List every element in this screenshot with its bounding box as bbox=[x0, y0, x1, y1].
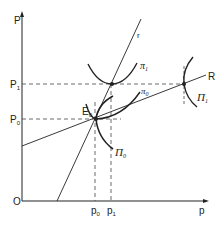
x-axis-label: p bbox=[199, 205, 205, 216]
line-R bbox=[22, 75, 206, 146]
curve-Pi1 bbox=[184, 57, 197, 107]
point-pi1-min bbox=[110, 82, 114, 86]
x-axis-arrow-icon bbox=[203, 199, 209, 203]
Pi1-label: Π1 bbox=[196, 91, 208, 104]
point-Pi1-R bbox=[182, 82, 186, 86]
point-E0 bbox=[94, 117, 98, 121]
pi1-label: π1 bbox=[140, 60, 148, 72]
origin-label: O bbox=[13, 196, 21, 207]
y-tick-P0: P0 bbox=[10, 114, 21, 126]
Pi0-label: Π0 bbox=[114, 146, 126, 159]
curve-Pi0 bbox=[96, 96, 113, 149]
line-r-label: r bbox=[137, 31, 140, 40]
economic-diagram: P p O P1 P0 p0 p1 r R E0 π1 π0 Π0 Π1 bbox=[0, 0, 223, 226]
x-tick-p0: p0 bbox=[91, 205, 101, 217]
y-tick-P1: P1 bbox=[10, 79, 21, 91]
line-R-label: R bbox=[208, 71, 215, 82]
y-axis-label: P bbox=[14, 15, 21, 26]
E0-label: E0 bbox=[82, 106, 93, 118]
x-tick-p1: p1 bbox=[107, 205, 117, 217]
pi0-label: π0 bbox=[141, 86, 149, 97]
